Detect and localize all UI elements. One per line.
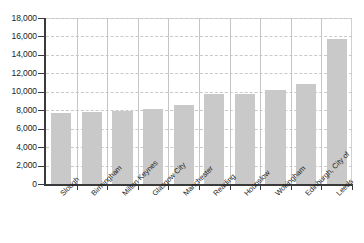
x-axis-tick: [352, 186, 353, 190]
bar: [235, 94, 255, 184]
bar: [82, 112, 102, 184]
x-axis-tick: [138, 186, 139, 190]
y-axis-tick-label: 2,000: [0, 161, 37, 170]
y-axis-tick-label: 4,000: [0, 143, 37, 152]
y-axis-tick-label: 16,000: [0, 32, 37, 41]
y-axis-labels: 18,00016,00014,00012,00010,0008,0006,000…: [0, 0, 37, 243]
x-axis-tick: [168, 186, 169, 190]
y-axis-tick-label: 10,000: [0, 87, 37, 96]
y-axis-tick-label: 6,000: [0, 124, 37, 133]
x-axis-tick: [260, 186, 261, 190]
x-axis-tick: [230, 186, 231, 190]
x-axis-tick: [321, 186, 322, 190]
y-axis-tick-label: 12,000: [0, 69, 37, 78]
y-axis-tick-label: 14,000: [0, 50, 37, 59]
x-axis-tick: [107, 186, 108, 190]
x-axis-tick: [77, 186, 78, 190]
bar-series: [46, 18, 352, 184]
y-axis-tick-label: 8,000: [0, 106, 37, 115]
x-axis-tick: [199, 186, 200, 190]
y-axis-line: [44, 18, 46, 185]
bar: [51, 113, 71, 184]
bar-chart: 18,00016,00014,00012,00010,0008,0006,000…: [0, 0, 364, 243]
y-axis-tick-label: 18,000: [0, 14, 37, 23]
x-axis-tick: [291, 186, 292, 190]
y-axis-tick-label: 0: [0, 180, 37, 189]
